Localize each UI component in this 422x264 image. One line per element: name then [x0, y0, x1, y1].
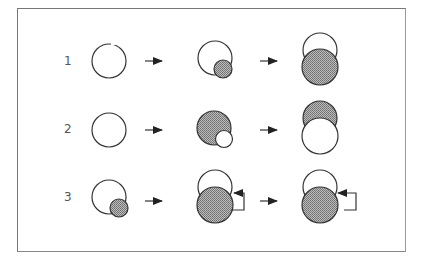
row-label-3: 3 — [64, 190, 72, 204]
row3-step3-feedback-arrow-icon — [338, 193, 356, 210]
row3-step3-stacked-circles — [302, 170, 338, 223]
row2-step2-shaded-with-empty — [197, 111, 233, 148]
row-label-1: 1 — [64, 54, 72, 68]
row2-step1-empty-circle — [92, 113, 126, 147]
row3-step2-stacked-circles — [197, 170, 233, 223]
row-label-2: 2 — [64, 122, 72, 136]
row3-step1-small-shaded-circle — [92, 180, 128, 217]
row1-step2-small-shaded-circle — [198, 41, 232, 78]
row1-step1-empty-circle — [92, 41, 126, 78]
cell-fusion-diagram: 1 2 3 — [0, 0, 422, 264]
row2-step3-stacked-circles — [302, 101, 338, 154]
row1-step3-stacked-circles — [302, 33, 338, 85]
